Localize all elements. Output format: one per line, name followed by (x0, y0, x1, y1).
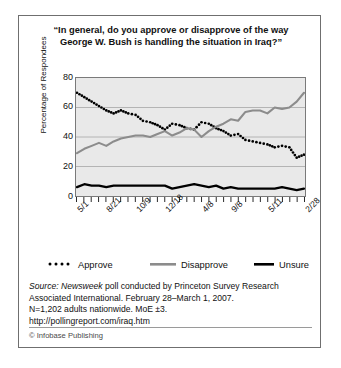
chart-legend: Approve Disapprove Unsure (25, 259, 316, 275)
series-canvas (76, 78, 305, 196)
source-line-1-rest: poll conducted by Princeton Survey Resea… (103, 281, 279, 291)
year-brackets (75, 230, 306, 256)
y-tick-20: 20 (51, 162, 73, 171)
source-url[interactable]: http://pollingreport.com/iraq.htm (29, 316, 314, 328)
series-unsure (77, 184, 304, 190)
y-tick-80: 80 (51, 73, 73, 82)
legend-swatch-approve-icon (47, 259, 73, 269)
plot-area (75, 77, 306, 197)
footer-divider (29, 327, 312, 328)
legend-label-approve: Approve (78, 260, 113, 270)
chart-card: “In general, do you approve or disapprov… (18, 15, 321, 348)
legend-label-disapprove: Disapprove (181, 260, 228, 270)
source-note: Source: Newsweek poll conducted by Princ… (29, 281, 314, 327)
y-tick-60: 60 (51, 102, 73, 111)
legend-label-unsure: Unsure (279, 260, 309, 270)
y-tick-0: 0 (51, 192, 73, 201)
publisher-credit: © Infobase Publishing (29, 331, 103, 340)
legend-item-approve: Approve (47, 259, 113, 273)
y-axis-ticks: 80 60 40 20 0 (49, 16, 73, 216)
legend-item-unsure: Unsure (254, 259, 309, 273)
series-approve (76, 91, 305, 159)
source-line-2: Associated International. February 28–Ma… (29, 293, 314, 305)
legend-swatch-disapprove-icon (150, 259, 176, 269)
legend-item-disapprove: Disapprove (150, 259, 228, 273)
source-line-1: Source: Newsweek poll conducted by Princ… (29, 281, 314, 293)
source-publication: Source: Newsweek (29, 281, 103, 291)
y-tick-40: 40 (51, 132, 73, 141)
source-line-3: N=1,202 adults nationwide. MoE ±3. (29, 304, 314, 316)
legend-swatch-unsure-icon (254, 259, 274, 269)
